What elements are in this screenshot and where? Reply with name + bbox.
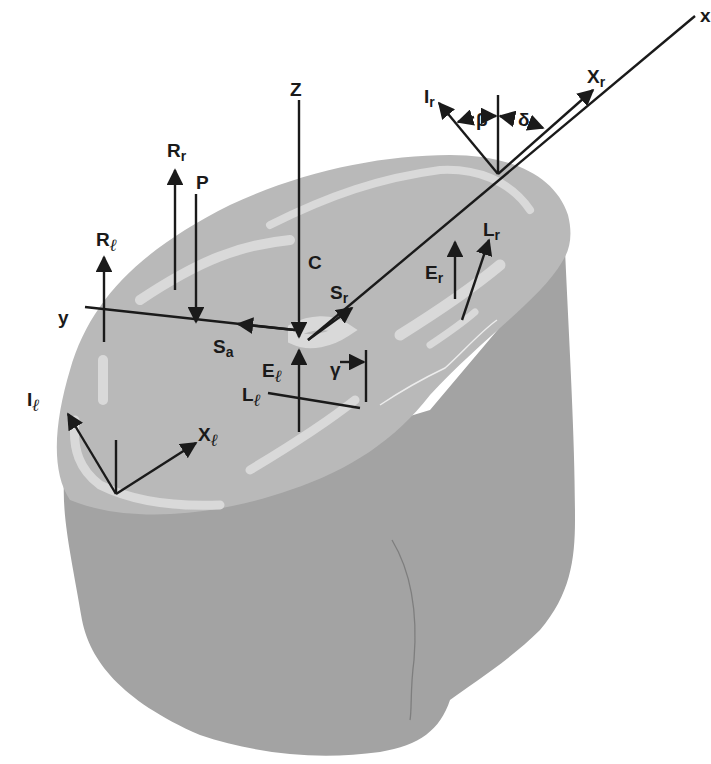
beta-arrow: [458, 117, 474, 122]
label-sr: Sr: [330, 283, 348, 305]
label-rl: Rℓ: [96, 230, 117, 254]
label-ir: Ir: [424, 87, 435, 109]
label-gamma: γ: [330, 360, 341, 379]
delta-arrow-left: [500, 116, 510, 118]
label-sa: Sa: [213, 337, 233, 359]
xr-arrow: [498, 90, 593, 174]
label-z-axis: Z: [290, 80, 302, 99]
label-ll: Lℓ: [242, 385, 261, 409]
label-il: Iℓ: [27, 390, 40, 414]
label-delta: δ: [518, 110, 530, 129]
label-er: Er: [425, 263, 443, 285]
label-c: C: [308, 253, 322, 272]
label-rr: Rr: [167, 141, 186, 163]
label-lr: Lr: [483, 220, 500, 242]
label-beta: β: [476, 110, 488, 129]
label-el: Eℓ: [262, 361, 282, 385]
label-p: P: [196, 173, 209, 192]
label-xr: Xr: [587, 67, 605, 89]
label-y-axis: y: [58, 308, 69, 327]
label-xl: Xℓ: [198, 425, 218, 449]
label-x-axis: x: [700, 6, 711, 25]
delta-arrow-right: [530, 123, 543, 128]
